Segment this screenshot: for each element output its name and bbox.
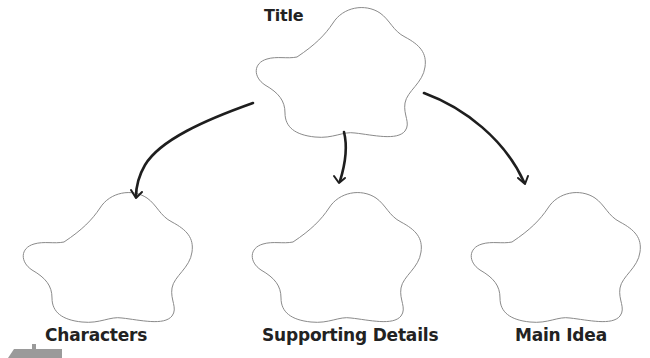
flower-node-supporting-details[interactable] (252, 193, 421, 323)
concept-map-canvas (0, 0, 650, 358)
flower-node-main-idea[interactable] (471, 193, 640, 323)
arrow-title-to-supporting-details (334, 132, 346, 183)
arrow-title-to-main-idea (424, 93, 528, 184)
flower-node-title[interactable] (256, 8, 425, 138)
node-label-main-idea: Main Idea (515, 325, 607, 345)
node-label-characters: Characters (45, 325, 147, 345)
decorative-artifact (8, 344, 62, 358)
arrow-title-to-characters (131, 103, 253, 198)
node-label-supporting-details: Supporting Details (262, 325, 438, 345)
node-label-title: Title (264, 6, 303, 25)
flower-node-characters[interactable] (23, 193, 192, 323)
